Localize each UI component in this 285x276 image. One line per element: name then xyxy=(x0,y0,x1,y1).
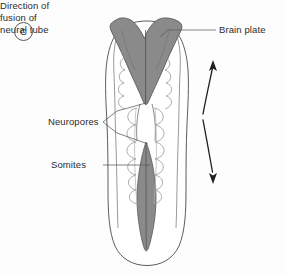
figure-panel-c: C Brain plate Neuropores Somites Directi… xyxy=(0,0,285,276)
embryo-diagram xyxy=(0,0,285,276)
upward-fusion-arrowhead xyxy=(209,60,217,71)
panel-letter-c: C xyxy=(14,22,33,41)
downward-fusion-arrowhead xyxy=(209,173,217,184)
fusion-arrows-group xyxy=(203,68,213,172)
label-somites: Somites xyxy=(51,159,86,171)
upward-fusion-arrow-shaft xyxy=(203,68,213,114)
label-neuropores: Neuropores xyxy=(48,116,99,128)
downward-fusion-arrow-shaft xyxy=(203,120,213,172)
label-brain-plate: Brain plate xyxy=(219,24,266,36)
